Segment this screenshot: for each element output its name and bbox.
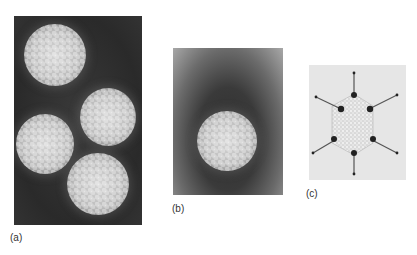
virion-particle (24, 24, 86, 86)
panel-label-a: (a) (10, 232, 22, 243)
panel-label-c: (c) (306, 188, 318, 199)
virion-particle (67, 153, 129, 215)
virion-particle (16, 114, 74, 174)
capsid-model-panel-c (309, 65, 406, 180)
virion-particle (197, 111, 257, 171)
virion-particle (80, 88, 136, 146)
panel-label-b: (b) (172, 203, 184, 214)
micrograph-panel-b (173, 48, 283, 195)
micrograph-panel-a (14, 16, 142, 225)
icosahedron-model-icon (309, 65, 406, 180)
